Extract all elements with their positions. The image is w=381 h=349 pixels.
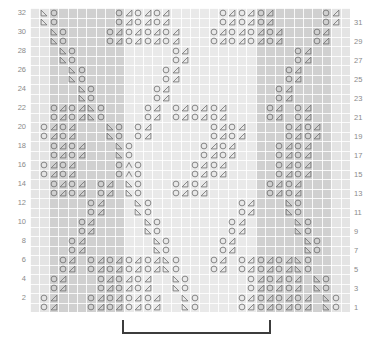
chart-cell-yarn-over-circle[interactable]	[294, 103, 303, 113]
chart-cell-right-leaning-decrease-triangle[interactable]	[68, 160, 77, 170]
chart-cell-right-leaning-decrease-triangle[interactable]	[218, 132, 227, 142]
chart-cell-right-leaning-decrease-triangle[interactable]	[77, 189, 86, 199]
chart-cell-yarn-over-circle[interactable]	[322, 284, 331, 294]
chart-cell-right-leaning-decrease-triangle[interactable]	[171, 37, 180, 47]
chart-cell-right-leaning-decrease-triangle[interactable]	[115, 265, 124, 275]
chart-cell-right-leaning-decrease-triangle[interactable]	[265, 293, 274, 303]
chart-cell-right-leaning-decrease-triangle[interactable]	[284, 293, 293, 303]
chart-cell-yarn-over-circle[interactable]	[39, 303, 48, 313]
chart-cell-yarn-over-circle[interactable]	[77, 75, 86, 85]
chart-cell-yarn-over-circle[interactable]	[284, 284, 293, 294]
chart-cell-right-leaning-decrease-triangle[interactable]	[68, 170, 77, 180]
chart-cell-right-leaning-decrease-triangle[interactable]	[143, 18, 152, 28]
chart-cell-right-leaning-decrease-triangle[interactable]	[275, 274, 284, 284]
chart-cell-yarn-over-circle[interactable]	[134, 122, 143, 132]
chart-cell-yarn-over-circle[interactable]	[218, 18, 227, 28]
chart-cell-yarn-over-circle[interactable]	[265, 103, 274, 113]
chart-cell-right-leaning-decrease-triangle[interactable]	[246, 303, 255, 313]
chart-cell-yarn-over-circle[interactable]	[294, 160, 303, 170]
chart-cell-yarn-over-circle[interactable]	[265, 113, 274, 123]
chart-cell-yarn-over-circle[interactable]	[49, 113, 58, 123]
chart-cell-yarn-over-circle[interactable]	[312, 27, 321, 37]
chart-cell-yarn-over-circle[interactable]	[105, 265, 114, 275]
chart-cell-yarn-over-circle[interactable]	[171, 255, 180, 265]
chart-cell-yarn-over-circle[interactable]	[265, 37, 274, 47]
chart-cell-yarn-over-circle[interactable]	[190, 303, 199, 313]
chart-cell-right-leaning-decrease-triangle[interactable]	[105, 179, 114, 189]
chart-cell-right-leaning-decrease-triangle[interactable]	[152, 265, 161, 275]
chart-cell-yarn-over-circle[interactable]	[228, 227, 237, 237]
chart-cell-right-leaning-decrease-triangle[interactable]	[96, 255, 105, 265]
chart-cell-yarn-over-circle[interactable]	[237, 198, 246, 208]
chart-cell-yarn-over-circle[interactable]	[190, 103, 199, 113]
chart-cell-yarn-over-circle[interactable]	[331, 303, 340, 313]
chart-cell-right-leaning-decrease-triangle[interactable]	[256, 284, 265, 294]
chart-cell-yarn-over-circle[interactable]	[143, 198, 152, 208]
chart-cell-yarn-over-circle[interactable]	[39, 170, 48, 180]
chart-cell-right-leaning-decrease-triangle[interactable]	[96, 293, 105, 303]
chart-cell-yarn-over-circle[interactable]	[115, 18, 124, 28]
chart-cell-central-double-decrease-chevron[interactable]	[124, 160, 133, 170]
chart-cell-right-leaning-decrease-triangle[interactable]	[181, 189, 190, 199]
chart-cell-right-leaning-decrease-triangle[interactable]	[134, 27, 143, 37]
chart-cell-yarn-over-circle[interactable]	[256, 255, 265, 265]
chart-cell-right-leaning-decrease-triangle[interactable]	[209, 141, 218, 151]
chart-cell-right-leaning-decrease-triangle[interactable]	[303, 56, 312, 66]
chart-cell-left-leaning-decrease-triangle[interactable]	[39, 18, 48, 28]
chart-cell-yarn-over-circle[interactable]	[331, 293, 340, 303]
chart-cell-right-leaning-decrease-triangle[interactable]	[322, 37, 331, 47]
chart-cell-right-leaning-decrease-triangle[interactable]	[199, 103, 208, 113]
chart-cell-yarn-over-circle[interactable]	[209, 255, 218, 265]
chart-cell-right-leaning-decrease-triangle[interactable]	[303, 46, 312, 56]
chart-cell-right-leaning-decrease-triangle[interactable]	[228, 141, 237, 151]
chart-cell-right-leaning-decrease-triangle[interactable]	[312, 132, 321, 142]
chart-cell-left-leaning-decrease-triangle[interactable]	[77, 94, 86, 104]
chart-cell-right-leaning-decrease-triangle[interactable]	[162, 8, 171, 18]
chart-cell-right-leaning-decrease-triangle[interactable]	[246, 198, 255, 208]
chart-cell-yarn-over-circle[interactable]	[162, 65, 171, 75]
chart-cell-left-leaning-decrease-triangle[interactable]	[58, 46, 67, 56]
chart-cell-yarn-over-circle[interactable]	[96, 113, 105, 123]
chart-cell-yarn-over-circle[interactable]	[190, 170, 199, 180]
chart-cell-yarn-over-circle[interactable]	[49, 103, 58, 113]
chart-cell-yarn-over-circle[interactable]	[105, 303, 114, 313]
chart-cell-left-leaning-decrease-triangle[interactable]	[294, 265, 303, 275]
chart-cell-yarn-over-circle[interactable]	[77, 65, 86, 75]
chart-cell-right-leaning-decrease-triangle[interactable]	[77, 246, 86, 256]
chart-cell-yarn-over-circle[interactable]	[143, 265, 152, 275]
chart-cell-yarn-over-circle[interactable]	[218, 236, 227, 246]
chart-cell-yarn-over-circle[interactable]	[275, 265, 284, 275]
chart-cell-right-leaning-decrease-triangle[interactable]	[303, 103, 312, 113]
chart-cell-yarn-over-circle[interactable]	[124, 293, 133, 303]
chart-cell-yarn-over-circle[interactable]	[162, 75, 171, 85]
chart-cell-right-leaning-decrease-triangle[interactable]	[96, 303, 105, 313]
chart-cell-right-leaning-decrease-triangle[interactable]	[303, 170, 312, 180]
chart-cell-yarn-over-circle[interactable]	[58, 27, 67, 37]
chart-cell-left-leaning-decrease-triangle[interactable]	[303, 246, 312, 256]
chart-cell-yarn-over-circle[interactable]	[115, 284, 124, 294]
chart-cell-yarn-over-circle[interactable]	[39, 293, 48, 303]
chart-cell-left-leaning-decrease-triangle[interactable]	[171, 284, 180, 294]
chart-cell-yarn-over-circle[interactable]	[265, 189, 274, 199]
chart-cell-right-leaning-decrease-triangle[interactable]	[105, 284, 114, 294]
chart-cell-yarn-over-circle[interactable]	[124, 141, 133, 151]
chart-cell-yarn-over-circle[interactable]	[134, 284, 143, 294]
chart-cell-yarn-over-circle[interactable]	[134, 8, 143, 18]
chart-cell-yarn-over-circle[interactable]	[303, 227, 312, 237]
chart-cell-yarn-over-circle[interactable]	[134, 189, 143, 199]
chart-cell-yarn-over-circle[interactable]	[303, 255, 312, 265]
chart-cell-yarn-over-circle[interactable]	[58, 160, 67, 170]
chart-cell-yarn-over-circle[interactable]	[143, 303, 152, 313]
chart-cell-yarn-over-circle[interactable]	[171, 113, 180, 123]
chart-cell-left-leaning-decrease-triangle[interactable]	[143, 217, 152, 227]
chart-cell-yarn-over-circle[interactable]	[284, 132, 293, 142]
chart-cell-yarn-over-circle[interactable]	[58, 122, 67, 132]
chart-cell-left-leaning-decrease-triangle[interactable]	[124, 179, 133, 189]
chart-cell-right-leaning-decrease-triangle[interactable]	[68, 122, 77, 132]
chart-cell-right-leaning-decrease-triangle[interactable]	[86, 227, 95, 237]
chart-cell-right-leaning-decrease-triangle[interactable]	[294, 284, 303, 294]
chart-cell-right-leaning-decrease-triangle[interactable]	[49, 170, 58, 180]
chart-cell-yarn-over-circle[interactable]	[237, 255, 246, 265]
chart-cell-yarn-over-circle[interactable]	[246, 27, 255, 37]
chart-cell-yarn-over-circle[interactable]	[284, 65, 293, 75]
